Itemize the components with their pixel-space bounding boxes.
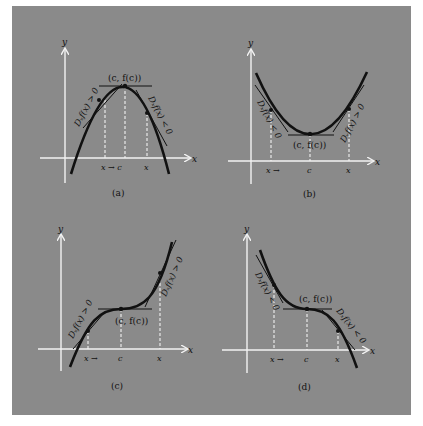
tick-label-x-to-c: x → c (101, 163, 122, 172)
panel-c: y x (c, f(c)) Dₓf(x) > 0 Dₓf(x) > 0 x → … (38, 224, 193, 391)
point-label: (c, f(c)) (293, 140, 326, 150)
tick-label-c: c (307, 166, 312, 175)
point-label: (c, f(c)) (115, 316, 148, 326)
point-label: (c, f(c)) (299, 294, 332, 304)
left-slope-label: Dₓf(x) > 0 (71, 85, 100, 128)
tick-label-x: x (335, 355, 340, 364)
point-left (86, 329, 90, 333)
panel-b: y x (c, f(c)) Dₓf(x) < 0 Dₓf(x) > 0 x → … (228, 38, 380, 199)
caption: (c) (111, 381, 123, 391)
x-axis-label: x (192, 154, 197, 164)
derivative-sign-diagram: y x (c, f(c)) Dₓf(x) > 0 Dₓf(x) < 0 x → … (0, 0, 423, 426)
tick-label-x-arrow: x → (270, 355, 284, 364)
panel-d: y x (c, f(c)) Dₓf(x) < 0 Dₓf(x) < 0 x → … (222, 224, 375, 392)
tick-label-x-arrow: x → (84, 354, 98, 363)
point-right (336, 329, 340, 333)
x-axis-label: x (188, 345, 193, 355)
tick-label-x: x (157, 354, 162, 363)
y-axis-label: y (61, 37, 68, 47)
caption: (a) (112, 188, 124, 198)
point-left (272, 283, 276, 287)
point-inflection (305, 307, 309, 311)
caption: (d) (298, 382, 311, 392)
y-axis-label: y (57, 224, 64, 234)
tick-label-x: x (144, 163, 149, 172)
point-max (123, 84, 127, 88)
x-axis-label: x (370, 346, 375, 356)
point-right (347, 107, 351, 111)
tick-label-x: x (346, 166, 351, 175)
point-right (145, 111, 149, 115)
tick-label-x-arrow: x → (266, 166, 280, 175)
right-slope-label: Dₓf(x) > 0 (337, 101, 366, 144)
left-slope-label: Dₓf(x) > 0 (65, 297, 94, 340)
left-slope-label: Dₓf(x) < 0 (255, 97, 284, 140)
x-axis-label: x (375, 157, 380, 167)
tick-label-c: c (118, 354, 123, 363)
point-min (308, 132, 312, 136)
y-axis-label: y (247, 38, 254, 48)
panel-a: y x (c, f(c)) Dₓf(x) > 0 Dₓf(x) < 0 x → … (40, 37, 197, 198)
point-left (97, 98, 101, 102)
point-right (158, 271, 162, 275)
y-axis-label: y (243, 224, 250, 234)
caption: (b) (303, 189, 316, 199)
point-label: (c, f(c)) (108, 73, 141, 83)
point-inflection (119, 307, 123, 311)
tick-label-c: c (304, 355, 309, 364)
